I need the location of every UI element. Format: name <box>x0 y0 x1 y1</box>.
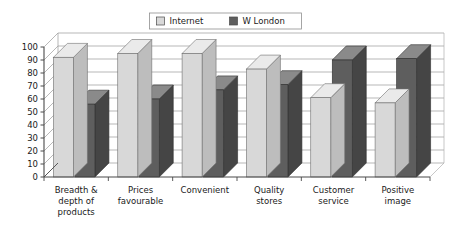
x-category-label: Customer <box>313 185 355 195</box>
bar-chart-figure: InternetW London 0102030405060708090100 … <box>0 0 451 232</box>
y-tick-label: 80 <box>27 68 38 78</box>
y-tick-label: 60 <box>27 94 38 104</box>
x-category-label: stores <box>256 196 282 206</box>
chart-legend: InternetW London <box>150 13 302 29</box>
x-category-label: Breadth & <box>55 185 98 195</box>
bar-front-face <box>182 54 202 178</box>
legend-label-internet: Internet <box>170 16 204 26</box>
x-category-label: Quality <box>254 185 284 195</box>
x-category-label: service <box>318 196 348 206</box>
bar-internet <box>53 43 87 177</box>
y-tick-label: 20 <box>27 146 38 156</box>
chart-canvas: InternetW London 0102030405060708090100 … <box>0 0 451 232</box>
x-category-label: favourable <box>118 196 164 206</box>
bar-side-face <box>159 85 173 177</box>
y-tick-label: 100 <box>22 42 38 52</box>
bar-internet <box>375 89 409 177</box>
y-tick-label: 30 <box>27 133 38 143</box>
y-tick-label: 70 <box>27 81 38 91</box>
bar-internet <box>118 40 152 178</box>
bar-side-face <box>352 46 366 177</box>
bar-front-face <box>311 98 331 177</box>
y-tick-label: 90 <box>27 55 38 65</box>
bar-side-face <box>395 89 409 177</box>
y-tick-label: 40 <box>27 120 38 130</box>
bar-side-face <box>417 45 431 177</box>
bar-side-face <box>202 40 216 178</box>
x-category-label: Positive <box>381 185 414 195</box>
x-category-label: image <box>385 196 411 206</box>
bar-side-face <box>266 55 280 177</box>
legend-swatch-w-london <box>230 17 238 25</box>
bar-front-face <box>53 57 73 177</box>
y-tick-label: 50 <box>27 107 38 117</box>
legend-label-w-london: W London <box>243 16 285 26</box>
bar-internet <box>311 84 345 177</box>
bar-internet <box>182 40 216 178</box>
y-tick-label: 10 <box>27 159 38 169</box>
x-category-label: depth of <box>58 196 95 206</box>
bar-side-face <box>224 76 238 177</box>
bar-front-face <box>118 54 138 178</box>
bar-side-face <box>95 90 109 177</box>
bar-front-face <box>375 103 395 177</box>
bar-side-face <box>73 43 87 177</box>
x-category-label: Convenient <box>181 185 230 195</box>
bar-side-face <box>331 84 345 177</box>
x-category-label: Prices <box>128 185 154 195</box>
bar-side-face <box>288 71 302 177</box>
legend-swatch-internet <box>157 17 165 25</box>
x-category-label: products <box>58 207 96 217</box>
bar-internet <box>246 55 280 177</box>
bar-front-face <box>246 69 266 177</box>
y-tick-label: 0 <box>33 172 38 182</box>
bar-side-face <box>138 40 152 178</box>
